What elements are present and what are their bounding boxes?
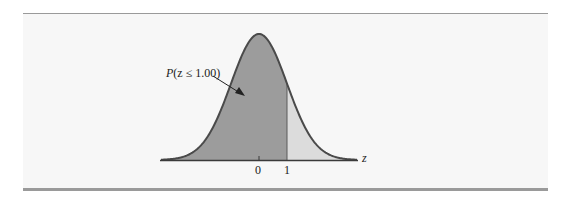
tick-label-0: 0 <box>255 164 261 176</box>
annotation-label: P(z ≤ 1.00) <box>166 67 220 79</box>
tick-label-1: 1 <box>284 164 290 176</box>
left-shaded-area <box>161 34 287 160</box>
annotation-body: (z ≤ 1.00) <box>173 66 220 80</box>
axis-variable-label: z <box>362 152 367 164</box>
axis-variable-text: z <box>362 151 367 165</box>
right-shaded-area <box>287 84 357 160</box>
